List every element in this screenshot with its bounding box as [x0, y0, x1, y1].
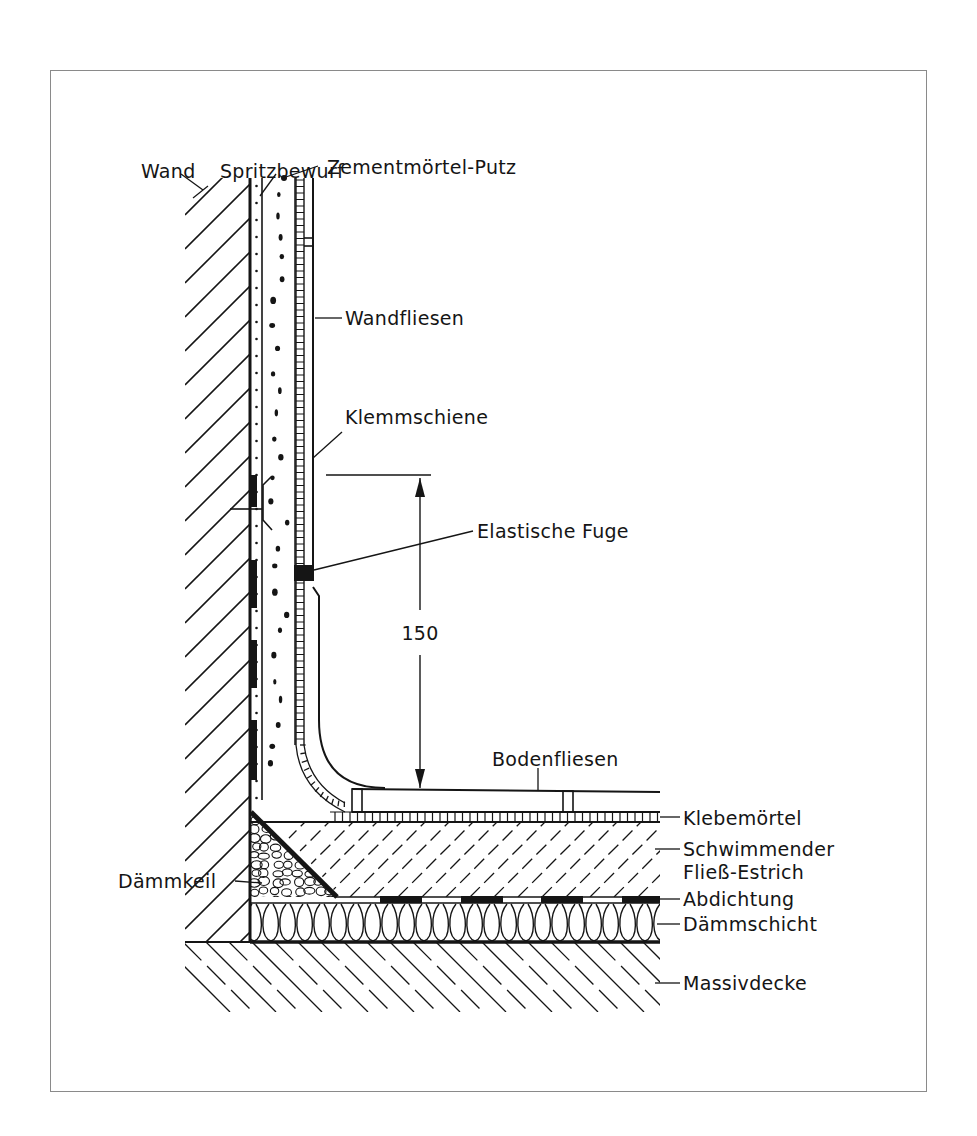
- section-drawing: 150 Wand Spritzbewurf Zementmörtel-Putz …: [0, 0, 977, 1136]
- elastic-joint: [294, 565, 314, 581]
- label-klebemoertel: Klebemörtel: [683, 807, 802, 829]
- label-wandfliesen: Wandfliesen: [345, 307, 464, 329]
- waterproofing-floor: [250, 896, 660, 903]
- insulation-layer: [246, 904, 670, 942]
- label-zementmoertel-putz: Zementmörtel-Putz: [327, 156, 516, 178]
- label-daemmschicht: Dämmschicht: [683, 913, 817, 935]
- label-abdichtung: Abdichtung: [683, 888, 794, 910]
- insulation-wedge: [248, 814, 337, 905]
- floor-tiles: [352, 789, 660, 812]
- label-massivdecke: Massivdecke: [683, 972, 807, 994]
- label-bodenfliesen: Bodenfliesen: [492, 748, 619, 770]
- adhesive-mortar-layer: [250, 812, 660, 822]
- wall-tiles: [296, 178, 385, 788]
- corner-fillet: [296, 745, 345, 812]
- label-daemmkeil: Dämmkeil: [118, 870, 216, 892]
- label-elastische-fuge: Elastische Fuge: [477, 520, 629, 542]
- dimension-value: 150: [401, 622, 438, 644]
- label-wand: Wand: [141, 160, 196, 182]
- wall-hatch: [185, 150, 250, 1031]
- label-klemmschiene: Klemmschiene: [345, 406, 488, 428]
- cement-plaster-layer: [268, 178, 295, 766]
- labels: Wand Spritzbewurf Zementmörtel-Putz Wand…: [118, 156, 834, 994]
- waterproofing-diagonal: [251, 812, 337, 897]
- label-fliess-estrich: Fließ-Estrich: [683, 861, 804, 883]
- label-schwimmender: Schwimmender: [683, 838, 834, 860]
